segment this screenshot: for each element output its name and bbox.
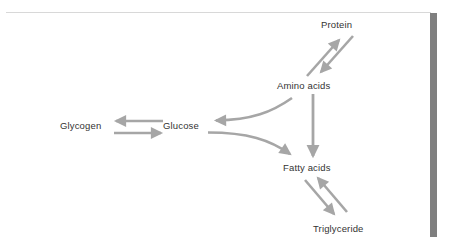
node-label-glycogen: Glycogen	[60, 120, 101, 132]
arrow-fatty-acids-to-triglyceride	[305, 180, 334, 214]
arrow-amino-acids-to-glucose	[216, 98, 292, 121]
diagram-page: Protein Amino acids Glycogen Glucose Fat…	[0, 0, 454, 251]
node-label-amino-acids: Amino acids	[277, 80, 330, 92]
node-label-glucose: Glucose	[163, 120, 199, 132]
arrow-triglyceride-to-fatty-acids	[318, 178, 347, 212]
node-label-protein: Protein	[321, 19, 352, 31]
node-label-triglyceride: Triglyceride	[313, 223, 364, 235]
arrow-glucose-to-fatty-acids	[208, 133, 290, 155]
node-label-fatty-acids: Fatty acids	[283, 162, 331, 174]
